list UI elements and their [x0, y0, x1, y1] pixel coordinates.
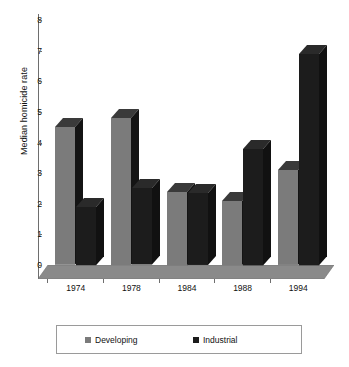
x-axis-tick-mark	[214, 279, 215, 283]
chart-legend: Developing Industrial	[56, 325, 302, 354]
x-axis-tick-mark	[270, 279, 271, 283]
bar-industrial-1974	[76, 198, 104, 265]
legend-swatch-icon	[85, 337, 91, 343]
x-axis-tick-mark	[103, 279, 104, 283]
x-axis-labels: 19741978198419881994	[38, 283, 334, 299]
bar-industrial-1988	[243, 140, 271, 265]
legend-item-industrial: Industrial	[193, 335, 238, 345]
x-axis-tick-label: 1988	[221, 283, 265, 293]
bar-industrial-1984	[188, 184, 216, 265]
legend-label: Developing	[95, 335, 138, 345]
legend-item-developing: Developing	[85, 335, 138, 345]
legend-label: Industrial	[203, 335, 238, 345]
x-axis-tick-mark	[159, 279, 160, 283]
bar-industrial-1978	[132, 179, 160, 265]
x-axis-tick-label: 1974	[54, 283, 98, 293]
x-axis-tick-label: 1978	[109, 283, 153, 293]
bar-industrial-1994	[299, 45, 327, 265]
chart-container: Median homicide rate 876543210 197419781…	[0, 0, 349, 367]
x-axis-tick-label: 1984	[165, 283, 209, 293]
plot-area: 876543210	[38, 14, 334, 279]
bars-layer	[38, 14, 334, 279]
x-axis-tick-label: 1994	[276, 283, 320, 293]
x-axis-tick-mark	[47, 279, 48, 283]
legend-swatch-icon	[193, 337, 199, 343]
